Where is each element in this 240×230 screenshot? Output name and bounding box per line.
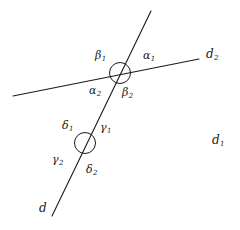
line-d-stroke <box>52 11 151 216</box>
label-d1-label: d1 <box>212 134 224 146</box>
delta-2-label: δ2 <box>86 164 97 175</box>
label-d1-symbol: d <box>212 133 220 147</box>
delta-1-label: δ1 <box>62 120 73 131</box>
gamma-1-subscript: 1 <box>107 127 111 135</box>
lower-circle <box>75 133 96 154</box>
alpha-2-label: α2 <box>89 85 101 96</box>
label-d-symbol: d <box>39 201 47 215</box>
delta-1-symbol: δ <box>62 119 69 132</box>
beta-2-subscript: 2 <box>129 92 133 100</box>
beta-1-symbol: β <box>95 49 101 62</box>
gamma-2-subscript: 2 <box>59 159 63 167</box>
alpha-1-label: α1 <box>143 50 155 61</box>
delta-2-symbol: δ <box>86 163 93 176</box>
alpha-1-symbol: α <box>143 49 150 62</box>
gamma-1-label: γ1 <box>100 122 111 133</box>
beta-1-label: β1 <box>95 50 106 61</box>
alpha-1-subscript: 1 <box>151 55 155 63</box>
delta-1-subscript: 1 <box>69 125 73 133</box>
alpha-2-subscript: 2 <box>97 90 101 98</box>
delta-2-subscript: 2 <box>93 169 97 177</box>
gamma-2-label: γ2 <box>52 154 63 165</box>
figure-canvas <box>0 0 240 230</box>
beta-1-subscript: 1 <box>102 55 106 63</box>
line-d2-stroke <box>13 59 199 96</box>
gamma-1-symbol: γ <box>100 121 107 134</box>
label-d2-subscript: 2 <box>214 54 218 62</box>
label-d-label: d <box>39 202 47 214</box>
beta-2-label: β2 <box>122 87 133 98</box>
geometry-figure: β1α1α2β2δ1γ1γ2δ2 d2d1d <box>0 0 240 230</box>
label-d1-subscript: 1 <box>220 140 224 148</box>
label-d2-label: d2 <box>206 48 218 60</box>
beta-2-symbol: β <box>122 86 128 99</box>
gamma-2-symbol: γ <box>52 153 59 166</box>
label-d2-symbol: d <box>206 47 214 61</box>
alpha-2-symbol: α <box>89 84 96 97</box>
